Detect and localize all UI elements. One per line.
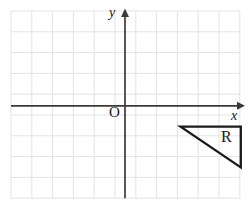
origin-label: O (109, 105, 120, 120)
y-axis-label: y (109, 6, 115, 20)
x-axis-label: x (231, 109, 237, 123)
shape-label-r: R (221, 129, 232, 145)
figure-canvas (0, 0, 252, 215)
y-axis-arrowhead (121, 9, 129, 18)
x-axis-arrowhead (237, 102, 245, 110)
coordinate-grid-figure: y x O R (0, 0, 252, 215)
axes (11, 9, 245, 199)
